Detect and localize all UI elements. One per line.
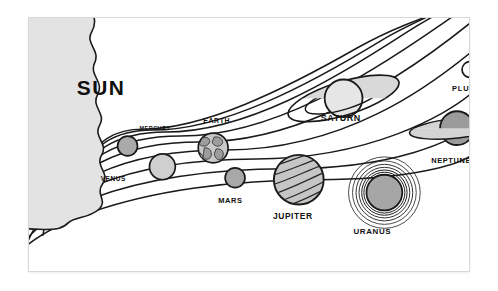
venus-planet	[149, 154, 175, 180]
sun-label: SUN	[77, 76, 126, 99]
mercury-label: MERCURY	[139, 125, 170, 131]
venus-label: VENUS	[101, 175, 126, 182]
neptune: NEPTUNE	[408, 111, 469, 165]
jupiter-planet	[274, 155, 324, 205]
jupiter: JUPITER	[270, 154, 328, 221]
solar-system-diagram: SUN SATURN PLUTO	[29, 18, 469, 271]
mercury-planet	[118, 136, 138, 156]
jupiter-label: JUPITER	[273, 211, 313, 221]
sun-body	[29, 18, 105, 230]
uranus-label: URANUS	[354, 227, 392, 236]
mars-label: MARS	[218, 196, 242, 205]
pluto: PLUTO	[452, 62, 469, 94]
pluto-planet	[462, 62, 469, 78]
orbit-jupiter	[59, 24, 469, 214]
earth: EARTH	[198, 117, 230, 163]
pluto-label: PLUTO	[452, 84, 469, 93]
diagram-frame: SUN SATURN PLUTO	[28, 17, 470, 272]
uranus: URANUS	[349, 157, 421, 236]
screenshot-root: SUN SATURN PLUTO	[0, 0, 498, 291]
orbit-mercury	[91, 18, 469, 159]
mars-planet	[225, 168, 245, 188]
saturn-label: SATURN	[321, 113, 361, 123]
sun: SUN	[29, 18, 125, 230]
earth-label: EARTH	[203, 117, 230, 124]
uranus-planet	[366, 175, 402, 211]
mercury: MERCURY	[118, 125, 171, 156]
saturn: SATURN	[283, 65, 403, 131]
neptune-label: NEPTUNE	[431, 156, 469, 165]
mars: MARS	[218, 168, 245, 205]
